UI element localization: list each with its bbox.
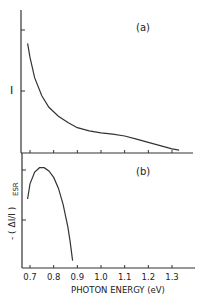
panel-b-ylabel: - ( ΔI/I ) ESR <box>7 182 20 240</box>
x-tick-label: 0.8 <box>47 272 61 282</box>
x-tick-label: 1.2 <box>142 272 156 282</box>
panel-a-ylabel: I <box>10 84 13 97</box>
panel-b-ylabel-sub: ESR <box>12 182 20 196</box>
x-tick-label: 0.7 <box>23 272 37 282</box>
x-axis-label: PHOTON ENERGY (eV) <box>71 285 165 295</box>
x-tick-labels: 0.70.80.91.01.11.21.3 <box>23 272 179 282</box>
x-tick-label: 1.1 <box>118 272 132 282</box>
x-tick-label: 1.0 <box>94 272 108 282</box>
panel-a-curve <box>28 43 180 150</box>
panel-b-curve <box>28 168 73 261</box>
x-tick-label: 1.3 <box>165 272 179 282</box>
panel-b: (b) - ( ΔI/I ) ESR 0.70.80.91.01.11.21.3… <box>7 153 195 295</box>
panel-a-label: (a) <box>136 22 150 33</box>
x-tick-label: 0.9 <box>71 272 85 282</box>
panel-b-ylabel-main: - ( ΔI/I ) <box>7 207 17 240</box>
figure: (a) I (b) - ( ΔI/I ) ESR 0.70.80.91.01.1… <box>0 0 201 295</box>
panel-b-label: (b) <box>136 166 150 177</box>
panel-a: (a) I <box>10 10 193 153</box>
